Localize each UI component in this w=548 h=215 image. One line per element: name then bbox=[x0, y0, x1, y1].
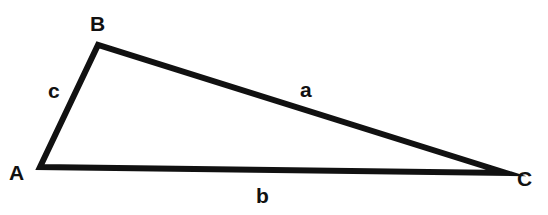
vertex-label-b: B bbox=[90, 12, 105, 35]
triangle-abc bbox=[40, 45, 506, 173]
triangle-diagram: A B C a b c bbox=[0, 0, 548, 215]
side-label-c: c bbox=[48, 79, 60, 102]
side-label-a: a bbox=[300, 78, 312, 101]
side-label-b: b bbox=[256, 184, 269, 207]
vertex-label-a: A bbox=[9, 161, 24, 184]
vertex-label-c: C bbox=[517, 167, 532, 190]
